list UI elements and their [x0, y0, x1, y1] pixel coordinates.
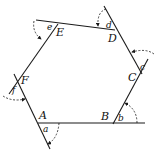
side-ef-extended [9, 24, 58, 94]
angle-label-e: e [47, 22, 52, 32]
angle-arc-c [132, 50, 154, 54]
angle-arc-f [3, 96, 25, 100]
vertex-label-f: F [20, 74, 29, 87]
vertex-label-c: C [128, 71, 137, 84]
angle-label-b: b [118, 113, 124, 123]
angle-arc-e [34, 21, 41, 39]
angle-label-d: d [106, 20, 112, 30]
angle-arc-a [48, 123, 59, 144]
vertex-label-d: D [107, 32, 117, 45]
angle-label-c: c [140, 62, 145, 72]
vertex-label-e: E [55, 26, 64, 39]
vertex-label-b: B [100, 110, 109, 123]
angle-label-a: a [43, 124, 48, 134]
hexagon-diagram: A B C D E F a b c d e f [0, 0, 156, 158]
angle-label-f: f [11, 85, 17, 95]
angle-arc-b [125, 103, 137, 123]
vertex-label-a: A [38, 109, 47, 122]
angle-arc-d [98, 9, 106, 26]
